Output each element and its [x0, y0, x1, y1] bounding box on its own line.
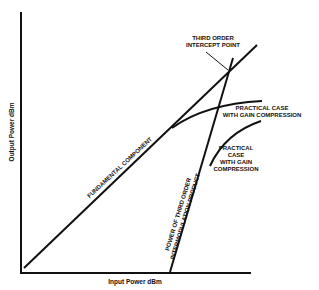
y-axis-label: Output Power dBm	[8, 102, 16, 161]
practical-lower-label-3: WITH GAIN	[220, 159, 252, 165]
diagram-canvas: THIRD ORDER INTERCEPT POINT PRACTICAL CA…	[0, 0, 319, 290]
practical-upper-label-1: PRACTICAL CASE	[236, 105, 289, 111]
intercept-label-1: THIRD ORDER	[192, 35, 234, 41]
intercept-label-2: INTERCEPT POINT	[186, 42, 240, 48]
practical-lower-label-4: COMPRESSION	[213, 166, 258, 172]
fundamental-line	[24, 45, 257, 268]
intercept-pointer	[206, 52, 228, 70]
intercept-diagram: THIRD ORDER INTERCEPT POINT PRACTICAL CA…	[0, 0, 319, 290]
practical-upper-label-2: WITH GAIN COMPRESSION	[223, 112, 302, 118]
x-axis-label: Input Power dBm	[108, 278, 162, 286]
practical-lower-label-1: PRACTICAL	[219, 145, 254, 151]
fundamental-label: FUNDAMENTAL COMPONENT	[86, 136, 153, 199]
practical-lower-label-2: CASE	[228, 152, 245, 158]
